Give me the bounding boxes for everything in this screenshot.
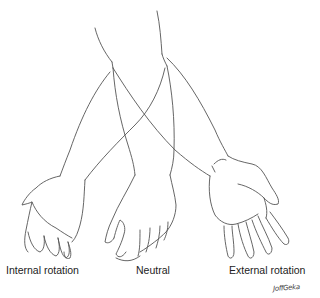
external-finger-3	[252, 216, 272, 254]
upper-arm-right-outline	[157, 11, 162, 54]
elbow-right-line	[162, 54, 167, 66]
neutral-finger-4	[164, 222, 168, 240]
internal-forearm-outer	[60, 72, 110, 176]
external-finger-4	[266, 212, 289, 245]
arm-line-drawing	[0, 0, 320, 298]
elbow-left-line	[112, 62, 113, 68]
neutral-hand-left	[105, 175, 135, 243]
internal-finger-1	[28, 232, 44, 252]
internal-thumb	[64, 242, 71, 259]
neutral-forearm-right	[167, 66, 174, 175]
upper-arm-left-outline	[95, 28, 112, 62]
external-palm-mark	[212, 166, 215, 172]
external-forearm-right	[167, 58, 228, 156]
external-hand-top	[228, 156, 279, 205]
external-palm-crease	[214, 159, 226, 164]
neutral-finger-2	[146, 228, 150, 252]
neutral-finger-3	[156, 226, 160, 248]
external-finger-1	[224, 226, 234, 258]
internal-finger-2	[44, 236, 59, 256]
internal-hand-knuckles	[32, 202, 72, 238]
forearm-rotation-illustration: Internal rotation Neutral External rotat…	[0, 0, 320, 298]
external-rotation-label: External rotation	[229, 264, 305, 276]
neutral-thumb	[114, 220, 126, 257]
neutral-label: Neutral	[136, 264, 170, 276]
external-finger-2	[238, 222, 254, 258]
external-hand-left	[209, 176, 258, 225]
external-forearm-left	[113, 68, 210, 176]
internal-hand-back	[72, 180, 85, 242]
internal-hand-outline	[22, 176, 60, 252]
internal-forearm-inner	[85, 68, 165, 180]
neutral-forearm-left	[113, 68, 135, 175]
external-palm-side	[264, 198, 267, 218]
internal-rotation-label: Internal rotation	[6, 264, 79, 276]
